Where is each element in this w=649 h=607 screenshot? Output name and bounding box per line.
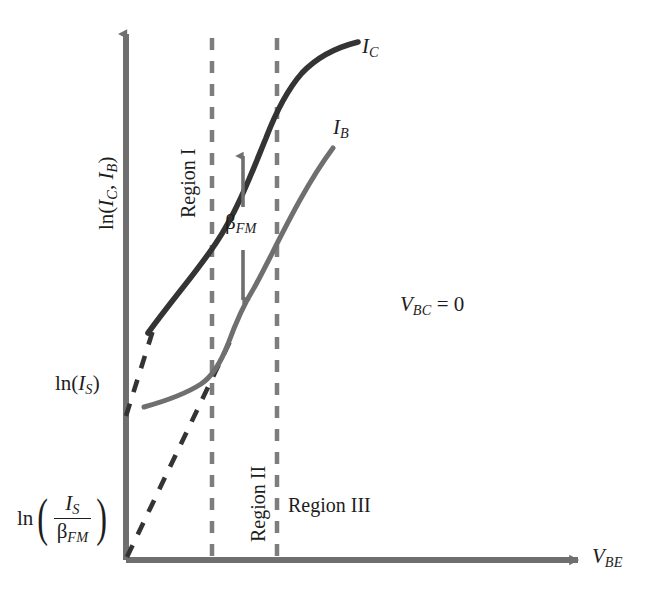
ln-is-tick-label: ln(IS) xyxy=(55,373,100,396)
ln-is-prefix: ln( xyxy=(55,371,78,395)
collector-current-symbol: I xyxy=(362,34,369,58)
y-axis-title-ib-symbol: I xyxy=(94,172,118,179)
x-axis-title: VBE xyxy=(592,546,623,569)
right-paren: ) xyxy=(97,497,108,540)
ln-is-suffix: ) xyxy=(93,371,100,395)
y-axis-title-suffix: ) xyxy=(94,157,118,164)
base-current-subscript: B xyxy=(340,125,349,141)
fraction-denominator-subscript: FM xyxy=(67,529,88,545)
y-axis-title-ib-subscript: B xyxy=(104,164,120,173)
y-axis-title-separator: , xyxy=(94,179,118,190)
y-axis-title-prefix: ln( xyxy=(94,207,118,230)
collector-current-label: IC xyxy=(362,36,379,59)
base-current-label: IB xyxy=(333,117,349,140)
bias-condition-label: VBC = 0 xyxy=(400,294,464,317)
fraction-denominator-symbol: β xyxy=(57,519,68,543)
fraction-numerator: IS xyxy=(61,492,83,518)
ln-operator: ln xyxy=(17,508,33,529)
region-1-label: Region I xyxy=(178,149,198,218)
ln-is-subscript: S xyxy=(85,381,92,397)
bias-condition-subscript: BC xyxy=(413,302,432,318)
left-paren: ( xyxy=(38,497,49,540)
fraction: IS βFM xyxy=(54,492,92,545)
y-axis-title: ln(IC, IB) xyxy=(96,157,119,230)
x-axis-title-symbol: V xyxy=(592,544,605,568)
beta-fm-label: βFM xyxy=(225,212,257,235)
y-axis-title-ic-symbol: I xyxy=(94,200,118,207)
base-current-curve xyxy=(144,148,333,407)
x-axis-title-subscript: BE xyxy=(605,554,623,570)
bias-condition-symbol: V xyxy=(400,292,413,316)
fraction-numerator-subscript: S xyxy=(72,501,79,517)
base-current-symbol: I xyxy=(333,115,340,139)
bias-condition-equals: = 0 xyxy=(431,292,464,316)
ln-is-over-beta-tick-label: ln ( IS βFM ) xyxy=(17,492,111,545)
beta-symbol: β xyxy=(225,210,236,234)
collector-current-subscript: C xyxy=(369,44,379,60)
gummel-plot-figure: ln(IC, IB) VBE Region I Region II Region… xyxy=(0,0,649,607)
beta-subscript: FM xyxy=(236,220,257,236)
region-2-label: Region II xyxy=(248,466,268,542)
y-axis-title-ic-subscript: C xyxy=(104,190,120,200)
region-3-label: Region III xyxy=(288,495,371,515)
fraction-denominator: βFM xyxy=(54,519,92,545)
collector-asymptote-dashed xyxy=(126,327,154,416)
